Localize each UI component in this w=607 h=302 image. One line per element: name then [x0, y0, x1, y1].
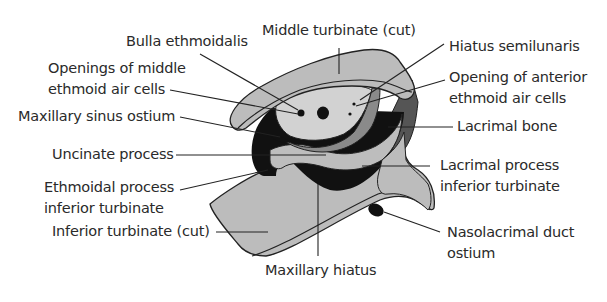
label-ethmoidal-process-line2: inferior turbinate [44, 198, 164, 218]
label-nasolacrimal-line2: ostium [447, 243, 495, 263]
label-opening-anterior-line1: Opening of anterior [449, 67, 587, 87]
label-uncinate-process: Uncinate process [52, 144, 174, 164]
label-lacrimal-process-line1: Lacrimal process [440, 155, 559, 175]
label-maxillary-hiatus: Maxillary hiatus [265, 260, 376, 280]
label-openings-middle-line1: Openings of middle [48, 58, 186, 78]
label-lacrimal-process-line2: inferior turbinate [440, 176, 560, 196]
label-opening-anterior-line2: ethmoid air cells [449, 88, 566, 108]
label-ethmoidal-process-line1: Ethmoidal process [44, 177, 174, 197]
anatomy-diagram: Middle turbinate (cut) Bulla ethmoidalis… [0, 0, 607, 302]
label-openings-middle-line2: ethmoid air cells [48, 79, 165, 99]
label-inferior-turbinate: Inferior turbinate (cut) [52, 221, 210, 241]
label-middle-turbinate: Middle turbinate (cut) [262, 20, 416, 40]
anterior-ethmoid-opening-2 [348, 112, 351, 115]
label-bulla-ethmoidalis: Bulla ethmoidalis [126, 31, 248, 51]
label-nasolacrimal-line1: Nasolacrimal duct [447, 222, 574, 242]
label-lacrimal-bone: Lacrimal bone [457, 116, 557, 136]
label-hiatus-semilunaris: Hiatus semilunaris [449, 36, 580, 56]
anterior-ethmoid-opening-1 [352, 102, 355, 105]
middle-ethmoid-opening-large [317, 107, 329, 120]
label-maxillary-sinus-ostium: Maxillary sinus ostium [18, 106, 175, 126]
middle-ethmoid-opening-small [298, 110, 305, 117]
